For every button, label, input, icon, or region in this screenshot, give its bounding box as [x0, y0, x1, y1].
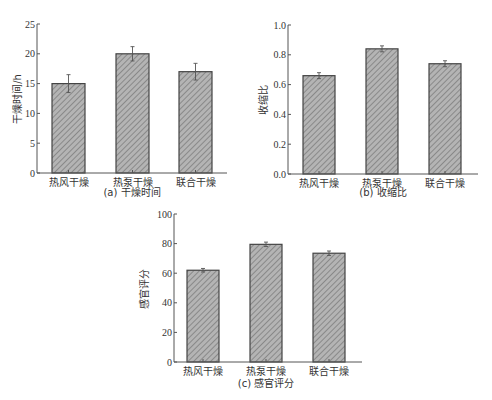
category-label: 热风干燥 — [183, 365, 223, 377]
bar-1 — [187, 270, 219, 362]
y-tick-label: 0.2 — [274, 139, 287, 150]
chart-c-caption: (c) 感官评分 — [238, 377, 294, 389]
y-tick-label: 0.0 — [274, 169, 287, 180]
y-tick-label: 1.0 — [274, 20, 287, 31]
y-tick-label: 40 — [162, 297, 172, 308]
y-tick-label: 20 — [25, 48, 35, 59]
chart-b-ylabel: 收缩比 — [257, 85, 269, 115]
y-tick-label: 0 — [167, 357, 172, 368]
figure: 热风干燥热泵干燥联合干燥0510152025 干燥时间/h (a) 干燥时间 热… — [0, 0, 492, 400]
chart-c: 热风干燥热泵干燥联合干燥020406080100 感官评分 (c) 感官评分 — [138, 209, 362, 390]
chart-a: 热风干燥热泵干燥联合干燥0510152025 干燥时间/h (a) 干燥时间 — [11, 19, 227, 199]
category-label: 联合干燥 — [309, 365, 349, 377]
chart-c-bars — [187, 242, 345, 362]
bar-3 — [179, 72, 212, 173]
chart-c-ylabel: 感官评分 — [138, 269, 150, 309]
chart-a-ylabel: 干燥时间/h — [11, 74, 23, 124]
chart-b: 热风干燥热泵干燥联合干燥0.00.20.40.60.81.0 收缩比 (b) 收… — [257, 20, 478, 199]
y-tick-label: 15 — [25, 78, 35, 89]
y-tick-label: 60 — [162, 268, 172, 279]
y-tick-label: 0.4 — [274, 109, 287, 120]
category-label: 热风干燥 — [49, 176, 89, 188]
category-label: 热泵干燥 — [246, 365, 286, 377]
bar-1 — [52, 84, 85, 173]
bar-2 — [116, 54, 149, 173]
bar-3 — [313, 253, 345, 362]
y-tick-label: 5 — [30, 138, 35, 149]
y-tick-label: 0 — [30, 168, 35, 179]
chart-b-bars — [303, 46, 461, 174]
category-label: 联合干燥 — [176, 176, 216, 188]
chart-a-caption: (a) 干燥时间 — [103, 186, 160, 198]
y-tick-label: 10 — [25, 108, 35, 119]
category-label: 热风干燥 — [299, 177, 339, 189]
bar-3 — [429, 64, 461, 174]
y-tick-label: 20 — [162, 327, 172, 338]
y-tick-label: 0.8 — [274, 49, 287, 60]
y-tick-label: 80 — [162, 238, 172, 249]
chart-a-bars — [52, 47, 212, 173]
bar-1 — [303, 76, 335, 174]
chart-b-caption: (b) 收缩比 — [359, 186, 406, 198]
category-label: 联合干燥 — [425, 177, 465, 189]
bar-2 — [250, 244, 282, 362]
y-tick-label: 25 — [25, 19, 35, 30]
bar-2 — [366, 49, 398, 174]
y-tick-label: 100 — [157, 209, 172, 220]
y-tick-label: 0.6 — [274, 79, 287, 90]
